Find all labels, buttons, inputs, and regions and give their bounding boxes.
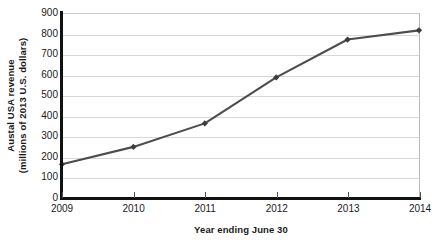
x-axis-tick	[205, 192, 206, 198]
x-axis-tick-label: 2013	[325, 203, 371, 215]
x-axis-title: Year ending June 30	[62, 224, 420, 236]
data-series-svg	[62, 14, 419, 198]
x-axis-tick-label: 2012	[254, 203, 300, 215]
x-axis-tick-label: 2011	[182, 203, 228, 215]
data-point-marker	[130, 144, 136, 150]
x-axis-tick	[134, 192, 135, 198]
y-axis-tick-label: 0	[28, 193, 58, 203]
x-axis-tick-label: 2010	[111, 203, 157, 215]
x-axis-tick	[348, 192, 349, 198]
y-axis-tick-label: 900	[28, 8, 58, 18]
y-axis-tick-label: 400	[28, 111, 58, 121]
y-axis-tick-label: 600	[28, 70, 58, 80]
y-axis-tick-label: 300	[28, 131, 58, 141]
x-axis-tick-label: 2014	[397, 203, 436, 215]
x-axis-tick	[62, 192, 63, 198]
y-axis-title-line-1: Austal USA revenue	[6, 37, 18, 173]
x-axis-tick-labels: 200920102011201220132014	[62, 203, 420, 219]
plot-area	[62, 13, 420, 198]
revenue-line	[62, 30, 419, 164]
x-axis-tick	[420, 192, 421, 198]
y-axis-spine	[60, 11, 63, 200]
y-axis-tick-labels: 0100200300400500600700800900	[28, 8, 58, 198]
y-axis-tick-label: 500	[28, 90, 58, 100]
y-axis-tick-label: 700	[28, 49, 58, 59]
y-axis-tick-label: 800	[28, 29, 58, 39]
y-axis-title-line-2: (millions of 2013 U.S. dollars)	[17, 37, 29, 173]
y-axis-tick-label: 200	[28, 152, 58, 162]
y-axis-tick-label: 100	[28, 172, 58, 182]
data-point-marker	[416, 27, 422, 33]
x-axis-tick-label: 2009	[39, 203, 85, 215]
x-axis-tick	[277, 192, 278, 198]
x-axis-ticks	[62, 192, 420, 198]
revenue-markers	[59, 27, 422, 167]
